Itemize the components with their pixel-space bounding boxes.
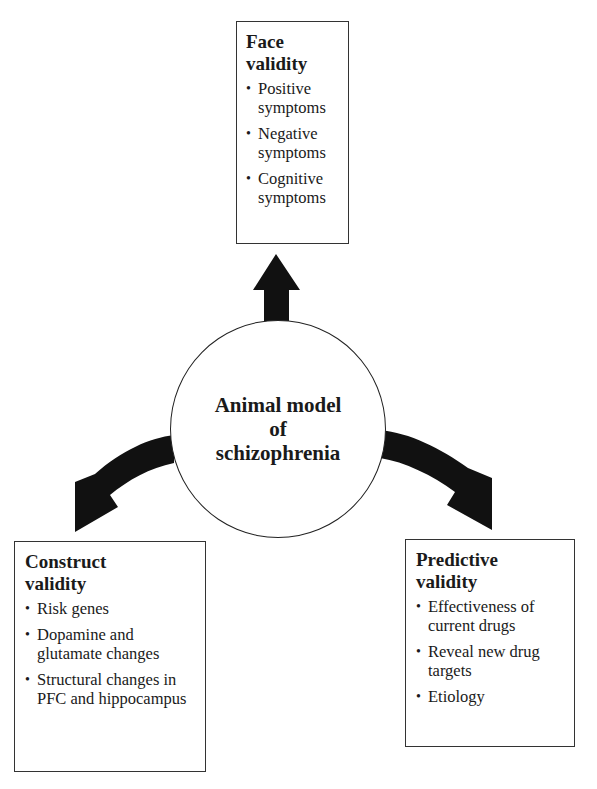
arrow-down-left-icon bbox=[75, 435, 174, 532]
center-label-line3: schizophrenia bbox=[193, 441, 363, 465]
center-label-line1: Animal model bbox=[193, 393, 363, 417]
construct-validity-box: Construct validity Risk genes Dopamine a… bbox=[14, 541, 206, 772]
list-item: Negative symptoms bbox=[246, 124, 340, 162]
list-item: Cognitive symptoms bbox=[246, 169, 340, 207]
predictive-validity-list: Effectiveness of current drugs Reveal ne… bbox=[416, 597, 568, 706]
center-node-label: Animal model of schizophrenia bbox=[193, 393, 363, 465]
face-validity-box: Face validity Positive symptoms Negative… bbox=[236, 21, 349, 244]
list-item: Etiology bbox=[416, 687, 568, 706]
list-item: Reveal new drug targets bbox=[416, 642, 568, 680]
face-validity-title: Face validity bbox=[246, 31, 340, 75]
construct-title-line1: Construct bbox=[25, 551, 197, 573]
list-item: Dopamine and glutamate changes bbox=[25, 625, 197, 663]
construct-validity-list: Risk genes Dopamine and glutamate change… bbox=[25, 599, 197, 708]
list-item: Structural changes in PFC and hippocampu… bbox=[25, 670, 197, 708]
predictive-title-line2: validity bbox=[416, 571, 568, 593]
list-item: Effectiveness of current drugs bbox=[416, 597, 568, 635]
predictive-validity-title: Predictive validity bbox=[416, 549, 568, 593]
list-item: Risk genes bbox=[25, 599, 197, 618]
face-title-line1: Face bbox=[246, 31, 340, 53]
arrow-up-icon bbox=[253, 254, 300, 322]
center-label-line2: of bbox=[193, 417, 363, 441]
face-title-line2: validity bbox=[246, 53, 340, 75]
list-item: Positive symptoms bbox=[246, 79, 340, 117]
center-node-animal-model: Animal model of schizophrenia bbox=[170, 320, 386, 538]
predictive-title-line1: Predictive bbox=[416, 549, 568, 571]
predictive-validity-box: Predictive validity Effectiveness of cur… bbox=[405, 539, 575, 747]
construct-title-line2: validity bbox=[25, 573, 197, 595]
construct-validity-title: Construct validity bbox=[25, 551, 197, 595]
face-validity-list: Positive symptoms Negative symptoms Cogn… bbox=[246, 79, 340, 207]
arrow-down-right-icon bbox=[380, 430, 492, 530]
